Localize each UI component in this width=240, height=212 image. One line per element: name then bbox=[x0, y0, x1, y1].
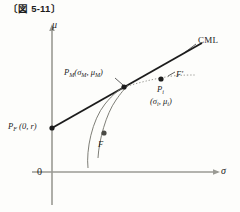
pm-coord-mid: , μ bbox=[86, 67, 95, 77]
point-label-pf: PF (0, r) bbox=[8, 122, 37, 132]
figure-caption: 〔図 5-11〕 bbox=[8, 4, 61, 14]
pi-coord-close: ) bbox=[169, 96, 172, 106]
y-axis-label: μ bbox=[52, 20, 57, 30]
point-coord-pi: (σi, μi) bbox=[150, 97, 172, 107]
point-marker-pi bbox=[158, 76, 163, 81]
pf-coord: (0, r) bbox=[17, 121, 37, 131]
pm-coord-close: ) bbox=[100, 67, 103, 77]
point-marker-pm bbox=[121, 84, 126, 89]
pi-subscript: i bbox=[162, 89, 164, 95]
origin-label: 0 bbox=[37, 167, 42, 177]
point-label-pm: PM(σM, μM) bbox=[64, 68, 103, 78]
curve-label-f: F bbox=[98, 140, 103, 149]
point-marker-f bbox=[101, 130, 106, 135]
pi-coord-mid: , μ bbox=[159, 96, 168, 106]
figure-container: 〔図 5-11〕 μ σ 0 PM(σM, μM) PF (0, r) Pi (… bbox=[0, 0, 240, 212]
x-axis-arrowhead bbox=[213, 169, 220, 175]
cml-line bbox=[52, 43, 202, 128]
curve-label-f-prime: F′ bbox=[176, 70, 183, 79]
point-label-pi: Pi bbox=[157, 85, 164, 95]
x-axis-label: σ bbox=[221, 166, 226, 176]
f-prime-leader-line bbox=[168, 72, 175, 76]
pm-leader-line bbox=[115, 78, 123, 85]
pi-coord-open: (σ bbox=[150, 96, 157, 106]
figure-drawing bbox=[0, 0, 240, 212]
point-marker-pf bbox=[49, 125, 54, 130]
cml-label: CML bbox=[198, 36, 218, 45]
frontier-curve-f bbox=[88, 86, 126, 168]
